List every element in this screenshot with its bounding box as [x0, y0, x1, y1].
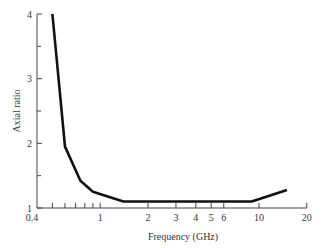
x-tick-label: 1: [98, 212, 103, 223]
x-tick-label: 4: [193, 212, 198, 223]
ticks: [37, 14, 307, 208]
y-axis-label: Axial ratio: [11, 89, 22, 132]
x-tick-label: 6: [221, 212, 226, 223]
x-tick-label: 5: [209, 212, 214, 223]
x-tick-label: 20: [302, 212, 312, 223]
tick-labels: 12340.41234561020: [26, 9, 312, 224]
y-tick-label: 4: [27, 9, 32, 20]
x-tick-label: 0.4: [26, 212, 39, 223]
axes: [37, 14, 307, 208]
x-tick-label: 10: [254, 212, 264, 223]
y-tick-label: 3: [27, 73, 32, 84]
y-tick-label: 2: [27, 138, 32, 149]
x-tick-label: 2: [146, 212, 151, 223]
x-axis-label: Frequency (GHz): [148, 231, 218, 243]
x-tick-label: 3: [173, 212, 178, 223]
axial-ratio-chart: 12340.41234561020 Frequency (GHz) Axial …: [0, 0, 326, 248]
axial-ratio-curve: [52, 14, 287, 202]
